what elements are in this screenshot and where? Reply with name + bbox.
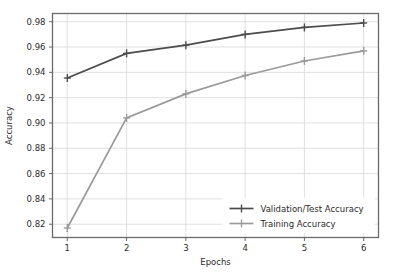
x-tick-label: 1 bbox=[65, 243, 70, 253]
legend: Validation/Test AccuracyTraining Accurac… bbox=[223, 198, 375, 234]
legend-label: Validation/Test Accuracy bbox=[261, 204, 364, 214]
x-tick-label: 3 bbox=[183, 243, 188, 253]
y-tick-label: 0.82 bbox=[27, 219, 46, 229]
y-tick-label: 0.98 bbox=[27, 17, 46, 27]
x-tick-label: 6 bbox=[361, 243, 366, 253]
y-tick-label: 0.88 bbox=[27, 143, 46, 153]
x-tick-label: 2 bbox=[124, 243, 129, 253]
accuracy-line-chart: 0.820.840.860.880.900.920.940.960.98 123… bbox=[0, 0, 396, 274]
y-tick-label: 0.86 bbox=[27, 169, 46, 179]
x-tick-label: 4 bbox=[242, 243, 247, 253]
legend-label: Training Accuracy bbox=[260, 219, 336, 229]
y-axis-title: Accuracy bbox=[4, 106, 14, 145]
y-tick-label: 0.96 bbox=[27, 42, 46, 52]
chart-figure: 0.820.840.860.880.900.920.940.960.98 123… bbox=[0, 0, 396, 274]
x-axis-title: Epochs bbox=[200, 257, 231, 267]
series-line bbox=[67, 23, 363, 78]
y-tick-label: 0.84 bbox=[27, 194, 46, 204]
y-tick-label: 0.90 bbox=[27, 118, 46, 128]
x-tick-labels: 123456 bbox=[65, 243, 367, 253]
y-tick-label: 0.92 bbox=[27, 93, 46, 103]
y-tick-label: 0.94 bbox=[27, 67, 46, 77]
x-tick-label: 5 bbox=[302, 243, 307, 253]
y-tick-labels: 0.820.840.860.880.900.920.940.960.98 bbox=[27, 17, 46, 229]
